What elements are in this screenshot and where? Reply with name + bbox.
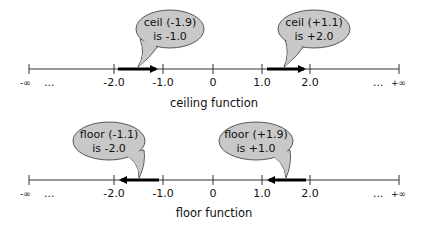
callout-line2: is -1.0	[153, 30, 187, 43]
tick-label: 0	[210, 76, 217, 89]
ceil-floor-diagram: -∞ ... -2.0 -1.0 0 1.0 2.0 ... +∞ ceil (…	[0, 0, 428, 232]
left-ellipsis: ...	[44, 76, 55, 89]
callout-line1: floor (-1.1)	[80, 128, 138, 141]
callout-line2: is +2.0	[295, 30, 334, 43]
pos-infinity-label: +∞	[391, 189, 406, 199]
tick-label: 2.0	[301, 187, 319, 200]
callout-line1: floor (+1.9)	[224, 128, 288, 141]
right-ellipsis: ...	[373, 187, 384, 200]
tick-label: -2.0	[103, 76, 124, 89]
callout-line1: ceil (-1.9)	[144, 16, 196, 29]
callout-line1: ceil (+1.1)	[285, 16, 343, 29]
pos-infinity-label: +∞	[391, 78, 406, 88]
callout-line2: is +1.0	[237, 142, 276, 155]
callout-bubble: ceil (-1.9) is -1.0	[136, 10, 204, 67]
tick-label: -1.0	[152, 187, 173, 200]
floor-diagram: -∞ ... -2.0 -1.0 0 1.0 2.0 ... +∞ floor …	[20, 122, 406, 220]
callout-bubble: floor (-1.1) is -2.0	[73, 122, 145, 178]
callout-line2: is -2.0	[92, 142, 126, 155]
left-ellipsis: ...	[44, 187, 55, 200]
neg-infinity-label: -∞	[20, 189, 31, 199]
ceiling-diagram: -∞ ... -2.0 -1.0 0 1.0 2.0 ... +∞ ceil (…	[20, 10, 406, 110]
tick-label: -1.0	[152, 76, 173, 89]
diagram-caption: floor function	[176, 206, 253, 220]
tick-label: 1.0	[253, 187, 271, 200]
right-ellipsis: ...	[373, 76, 384, 89]
neg-infinity-label: -∞	[20, 78, 31, 88]
tick-label: 0	[210, 187, 217, 200]
tick-label: -2.0	[103, 187, 124, 200]
diagram-caption: ceiling function	[170, 96, 258, 110]
tick-label: 2.0	[301, 76, 319, 89]
tick-label: 1.0	[253, 76, 271, 89]
callout-bubble: ceil (+1.1) is +2.0	[278, 10, 350, 67]
callout-bubble: floor (+1.9) is +1.0	[219, 122, 293, 178]
